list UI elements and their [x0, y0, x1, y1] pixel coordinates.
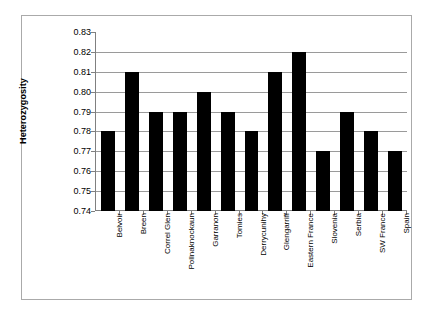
y-tick-label: 0.79 [73, 108, 91, 117]
y-axis-tick-labels: 0.830.820.810.800.790.780.770.760.750.74 [69, 32, 93, 211]
x-tick-label: Pollnaknockaun [185, 213, 199, 301]
y-tick-mark [91, 171, 95, 172]
bar [388, 151, 402, 211]
bar [245, 131, 259, 211]
y-tick-mark [91, 52, 95, 53]
x-tick-label: Garranon [209, 213, 223, 301]
bar [173, 112, 187, 211]
y-tick-label: 0.74 [73, 207, 91, 216]
y-tick-label: 0.81 [73, 68, 91, 77]
y-tick-mark [91, 211, 95, 212]
x-tick-label: Correl Glen [161, 213, 175, 301]
bar [101, 131, 115, 211]
x-tick-label: Breen [137, 213, 151, 301]
y-tick-mark [91, 131, 95, 132]
x-tick-label: Spain [400, 213, 414, 301]
x-tick-label: Derrycunihy [257, 213, 271, 301]
x-axis-tick-labels: BelvoirBreenCorrel GlenPollnaknockaunGar… [96, 213, 408, 301]
x-tick-label: Belvoir [113, 213, 127, 301]
y-tick-label: 0.76 [73, 167, 91, 176]
bar [340, 112, 354, 211]
x-tick-label: Serbia [352, 213, 366, 301]
y-tick-mark [91, 72, 95, 73]
y-tick-label: 0.80 [73, 88, 91, 97]
bar [316, 151, 330, 211]
bar [125, 72, 139, 211]
bar [221, 112, 235, 211]
y-tick-label: 0.82 [73, 48, 91, 57]
y-tick-mark [91, 92, 95, 93]
y-tick-mark [91, 32, 95, 33]
y-tick-mark [91, 151, 95, 152]
bar [149, 112, 163, 211]
x-tick-label: Tomies [233, 213, 247, 301]
x-tick-label: Slovenia [328, 213, 342, 301]
y-tick-mark [91, 112, 95, 113]
x-tick-label: Eastern France [304, 213, 318, 301]
plot-box [95, 32, 407, 211]
bar [292, 52, 306, 211]
y-tick-label: 0.83 [73, 28, 91, 37]
x-tick-label: SW France [376, 213, 390, 301]
bars-layer [96, 32, 407, 211]
y-tick-label: 0.78 [73, 127, 91, 136]
bar [197, 92, 211, 211]
y-tick-label: 0.77 [73, 147, 91, 156]
y-axis-title: Heterozygosity [18, 56, 32, 166]
bar [268, 72, 282, 211]
x-tick-label: Glengarriff [280, 213, 294, 301]
plot-region: 0.830.820.810.800.790.780.770.760.750.74 [69, 32, 407, 211]
bar [364, 131, 378, 211]
y-tick-label: 0.75 [73, 187, 91, 196]
y-tick-mark [91, 191, 95, 192]
chart-figure: Heterozygosity 0.830.820.810.800.790.780… [21, 15, 412, 300]
